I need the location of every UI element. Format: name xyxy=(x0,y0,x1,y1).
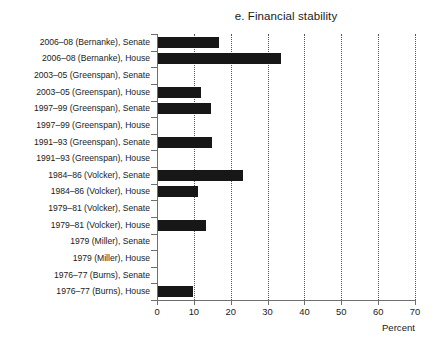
bar xyxy=(157,286,193,297)
y-axis-label: 1991–93 (Greenspan), House xyxy=(0,153,150,163)
x-axis-tick-label: 50 xyxy=(326,306,356,317)
x-axis-tick xyxy=(378,300,379,305)
y-axis-tick xyxy=(151,134,157,135)
chart-title: e. Financial stability xyxy=(157,10,415,22)
y-axis-label: 2003–05 (Greenspan), House xyxy=(0,87,150,97)
gridline-70 xyxy=(415,34,416,300)
y-axis-label: 2006–08 (Bernanke), House xyxy=(0,53,150,63)
bar xyxy=(157,170,243,181)
gridline-50 xyxy=(341,34,342,300)
y-axis-tick xyxy=(151,101,157,102)
y-axis-tick xyxy=(151,51,157,52)
y-axis-label: 1984–86 (Volcker), Senate xyxy=(0,170,150,180)
y-axis-label: 1979 (Miller), Senate xyxy=(0,236,150,246)
y-axis-label: 1976–77 (Burns), Senate xyxy=(0,270,150,280)
x-axis-tick xyxy=(341,300,342,305)
x-axis-title: Percent xyxy=(345,322,415,333)
bar xyxy=(157,137,212,148)
gridline-60 xyxy=(378,34,379,300)
y-axis-tick xyxy=(151,184,157,185)
x-axis-tick xyxy=(231,300,232,305)
y-axis-tick xyxy=(151,200,157,201)
y-axis-label: 1976–77 (Burns), House xyxy=(0,286,150,296)
bar xyxy=(157,37,219,48)
y-axis-tick xyxy=(151,217,157,218)
x-axis-tick xyxy=(268,300,269,305)
x-axis-tick xyxy=(304,300,305,305)
x-axis-tick xyxy=(157,300,158,305)
x-axis-tick-label: 70 xyxy=(400,306,430,317)
y-axis-label: 1979–81 (Volcker), House xyxy=(0,220,150,230)
y-axis-label: 1979–81 (Volcker), Senate xyxy=(0,203,150,213)
y-axis-label: 1997–99 (Greenspan), House xyxy=(0,120,150,130)
x-axis-tick-label: 40 xyxy=(289,306,319,317)
y-axis-label: 1984–86 (Volcker), House xyxy=(0,186,150,196)
x-axis-tick-label: 10 xyxy=(179,306,209,317)
bar xyxy=(157,186,198,197)
y-axis-tick xyxy=(151,34,157,35)
gridline-40 xyxy=(304,34,305,300)
gridline-10 xyxy=(194,34,195,300)
x-axis-tick-label: 60 xyxy=(363,306,393,317)
y-axis-line xyxy=(157,34,158,300)
chart-figure: e. Financial stability 2006–08 (Bernanke… xyxy=(0,0,440,345)
y-axis-tick xyxy=(151,117,157,118)
bar xyxy=(157,103,211,114)
bar xyxy=(157,87,201,98)
y-axis-label: 2003–05 (Greenspan), Senate xyxy=(0,70,150,80)
x-axis-tick-label: 0 xyxy=(142,306,172,317)
x-axis-tick-label: 30 xyxy=(253,306,283,317)
y-axis-tick xyxy=(151,150,157,151)
bar xyxy=(157,220,206,231)
plot-area xyxy=(157,34,415,300)
x-axis-line xyxy=(157,300,416,301)
y-axis-tick xyxy=(151,250,157,251)
x-axis-tick xyxy=(415,300,416,305)
x-axis-tick-label: 20 xyxy=(216,306,246,317)
y-axis-label: 1997–99 (Greenspan), Senate xyxy=(0,103,150,113)
y-axis-tick xyxy=(151,167,157,168)
y-axis-tick xyxy=(151,283,157,284)
gridline-30 xyxy=(268,34,269,300)
y-axis-tick xyxy=(151,234,157,235)
gridline-20 xyxy=(231,34,232,300)
y-axis-tick xyxy=(151,267,157,268)
x-axis-tick xyxy=(194,300,195,305)
y-axis-label: 2006–08 (Bernanke), Senate xyxy=(0,37,150,47)
y-axis-label: 1991–93 (Greenspan), Senate xyxy=(0,137,150,147)
y-axis-label: 1979 (Miller), House xyxy=(0,253,150,263)
y-axis-tick xyxy=(151,67,157,68)
bar xyxy=(157,53,281,64)
y-axis-tick xyxy=(151,84,157,85)
